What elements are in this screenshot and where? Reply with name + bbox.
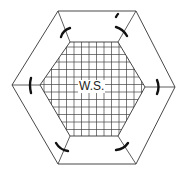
arc-mark-top-right: [116, 27, 127, 36]
arc-mark-top-right-tick: [116, 14, 118, 17]
arc-mark-top-left: [61, 28, 70, 37]
arc-mark-left: [30, 78, 31, 93]
center-label: W.S.: [78, 80, 105, 93]
